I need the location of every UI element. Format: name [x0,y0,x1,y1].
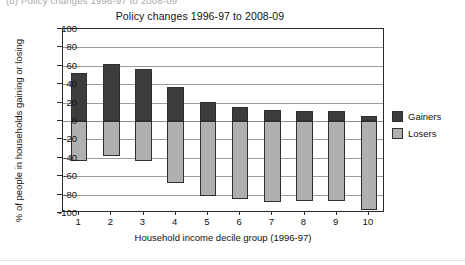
bar-gainers[interactable] [103,64,120,121]
legend-item[interactable]: Gainers [392,110,441,122]
chart-title: Policy changes 1996-97 to 2008-09 [0,10,400,22]
bar-gainers[interactable] [167,87,184,121]
legend-label: Gainers [408,111,441,122]
bar-losers[interactable] [200,121,217,196]
x-tick-label: 7 [256,216,286,227]
y-tick-mark [57,65,62,66]
y-tick-mark [57,28,62,29]
x-tick-label: 3 [128,216,158,227]
y-tick-mark [57,83,62,84]
x-tick-mark [271,211,272,215]
x-tick-label: 6 [224,216,254,227]
bar-losers[interactable] [232,121,249,199]
bar-group[interactable] [135,29,152,211]
x-tick-mark [336,211,337,215]
chart-legend: GainersLosers [392,110,441,144]
y-tick-mark [57,102,62,103]
bar-gainers[interactable] [296,111,313,121]
bar-losers[interactable] [167,121,184,183]
x-tick-mark [175,211,176,215]
bar-group[interactable] [264,29,281,211]
legend-swatch-icon [392,128,403,139]
bar-losers[interactable] [135,121,152,161]
bar-group[interactable] [200,29,217,211]
bar-losers[interactable] [296,121,313,201]
x-tick-mark [368,211,369,215]
bar-group[interactable] [296,29,313,211]
x-tick-mark [143,211,144,215]
legend-swatch-icon [392,111,403,122]
bar-gainers[interactable] [232,107,249,121]
bar-gainers[interactable] [328,111,345,121]
x-axis-title: Household income decile group (1996-97) [62,232,384,243]
bar-gainers[interactable] [135,69,152,121]
y-tick-mark [57,175,62,176]
x-tick-mark [304,211,305,215]
x-tick-label: 1 [63,216,93,227]
y-tick-mark [57,194,62,195]
bar-gainers[interactable] [200,102,217,121]
y-tick-mark [57,212,62,213]
bar-gainers[interactable] [264,110,281,121]
caption-text: (b) Policy changes 1996-97 to 2008-09 [6,0,336,6]
x-tick-mark [239,211,240,215]
y-tick-mark [57,46,62,47]
x-tick-label: 5 [192,216,222,227]
legend-item[interactable]: Losers [392,127,441,139]
plot-area [62,28,384,212]
y-tick-mark [57,157,62,158]
cut-off-caption: (b) Policy changes 1996-97 to 2008-09 [6,0,336,7]
x-tick-label: 2 [95,216,125,227]
x-tick-mark [78,211,79,215]
y-tick-mark [57,120,62,121]
x-tick-mark [207,211,208,215]
x-tick-mark [110,211,111,215]
legend-label: Losers [408,128,437,139]
bar-group[interactable] [232,29,249,211]
x-tick-label: 9 [321,216,351,227]
bar-group[interactable] [167,29,184,211]
bar-losers[interactable] [328,121,345,201]
bar-group[interactable] [103,29,120,211]
y-axis-title: % of people in households gaining or los… [13,36,24,226]
x-tick-label: 4 [160,216,190,227]
x-tick-label: 10 [353,216,383,227]
y-tick-mark [57,138,62,139]
bottom-divider [0,260,465,261]
bar-losers[interactable] [361,121,378,210]
bar-losers[interactable] [264,121,281,202]
x-tick-label: 8 [289,216,319,227]
bar-group[interactable] [328,29,345,211]
bar-losers[interactable] [103,121,120,156]
bar-group[interactable] [361,29,378,211]
